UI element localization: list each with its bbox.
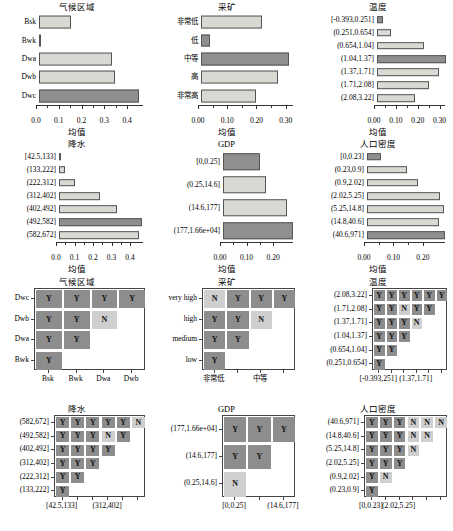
matrix-row-label: (402,492] (20, 445, 49, 453)
bar-row: (14.6,177] (152, 196, 301, 219)
x-tick (423, 243, 424, 246)
matrix-col-label: (312,402] (92, 501, 121, 510)
matrix-row-tick (31, 339, 34, 340)
matrix-row-tick (369, 336, 372, 337)
matrix-row-tick (219, 456, 222, 457)
x-axis: 0.000.100.20 (364, 242, 445, 263)
matrix-cell: Y (204, 331, 225, 349)
bar-row: (0.251,0.654] (302, 26, 453, 39)
matrix-col-label: [0,0.25] (222, 501, 246, 510)
matrix-cell: Y (399, 290, 410, 301)
bar (377, 95, 415, 103)
matrix-cell: Y (366, 445, 378, 456)
panel-title: GDP (152, 404, 301, 415)
matrix-cell: Y (64, 290, 90, 308)
x-axis: 0.00.10.20.30.4 (36, 105, 143, 126)
matrix-cell: Y (412, 304, 423, 315)
matrix-cell: Y (374, 345, 385, 356)
matrix-row-label: (14.8,40.6] (326, 432, 359, 440)
panel-climate-zone-bars: 气候区域BskBwkDwaDwbDwc0.00.10.20.30.4均值 (2, 2, 151, 137)
x-axis: 0.00.10.20.30.4 (56, 242, 143, 263)
matrix-row-tick (361, 449, 364, 450)
x-tick (374, 106, 375, 109)
bar (39, 16, 71, 29)
bar-row: (0.25,14.6] (152, 173, 301, 196)
matrix-cell: N (204, 290, 225, 308)
bar (377, 55, 446, 63)
bar-category-label: [0,0.25] (152, 158, 223, 166)
x-tick-labels: 0.000.100.20 (364, 253, 445, 263)
bar-row: Dwc (2, 87, 151, 105)
matrix-cell: N (224, 472, 246, 497)
figure-canvas: 气候区域BskBwkDwaDwbDwc0.00.10.20.30.4均值采矿非常… (0, 0, 453, 531)
bar-row: (312,402] (2, 189, 151, 202)
matrix-col-tick (122, 497, 123, 500)
bar-category-label: (492,582] (2, 218, 59, 226)
bar-plot-area: [0,0.25](0.25,14.6](14.6,177](177,1.66e+… (152, 150, 301, 242)
bar-plot-area: [0,0.23](0.23,0.9](0.9,2.02](2.02,5.25](… (302, 150, 453, 242)
bar-category-label: Dwc (2, 92, 39, 100)
matrix-cell: Y (374, 359, 385, 370)
x-tick (36, 106, 37, 109)
bar-category-label: (177,1.66e+04] (152, 227, 223, 235)
panel-title: 气候区域 (2, 277, 151, 288)
matrix-cell: N (408, 445, 420, 456)
bar-category-label: 非常低 (152, 18, 201, 26)
bar (59, 218, 142, 226)
bar-category-label: Dwa (2, 55, 39, 63)
x-tick (227, 106, 228, 109)
x-tick-label: 0.4 (122, 116, 131, 125)
matrix-cell: Y (102, 417, 115, 428)
bar-row: (1.37,1.71] (302, 66, 453, 79)
x-tick-label: 0.20 (411, 116, 424, 125)
matrix-cell: N (102, 431, 115, 442)
matrix-cell: Y (224, 417, 246, 442)
matrix-col-label: 中等 (253, 374, 267, 383)
matrix-cell: Y (374, 331, 385, 342)
bar-track (59, 216, 151, 229)
matrix-cell: Y (71, 417, 84, 428)
x-axis-title: 均值 (152, 264, 301, 274)
matrix-cell: Y (71, 445, 84, 456)
bar-track (223, 173, 301, 196)
bar-category-label: (1.04,1.37] (302, 55, 377, 63)
x-tick (93, 243, 94, 246)
bar-row: 低 (152, 31, 301, 49)
x-minor-tick (260, 243, 261, 245)
matrix-row-label: (1.71,2.08] (334, 305, 367, 313)
x-tick-label: 0.2 (77, 116, 86, 125)
matrix-row-tick (369, 295, 372, 296)
matrix-col-tick (428, 370, 429, 373)
matrix-col-tick (107, 497, 108, 500)
x-tick-label: 0.2 (88, 253, 97, 262)
matrix-col-label: [0,0.23] (359, 501, 383, 510)
bar-track (201, 13, 301, 31)
bar (39, 53, 112, 66)
matrix-cell: Y (366, 417, 378, 428)
x-minor-tick (408, 243, 409, 245)
matrix-cell: Y (71, 458, 84, 469)
bar-track (223, 150, 301, 173)
matrix-row-label: (0.654,1.04] (330, 346, 367, 354)
matrix-row-label: Dwc (15, 294, 29, 302)
matrix-row-label: (1.04,1.37] (334, 332, 367, 340)
matrix-cell: Y (387, 345, 398, 356)
x-tick-label: 0.3 (100, 116, 109, 125)
matrix-cell: N (92, 311, 118, 329)
bar-row: (2.08,3.22] (302, 92, 453, 105)
matrix-cell: N (408, 431, 420, 442)
bar-category-label: (40.6,971] (302, 231, 367, 239)
matrix-row-label: very high (168, 294, 197, 302)
bar (59, 166, 65, 174)
matrix-cell: Y (424, 304, 435, 315)
matrix-col-label: Dwb (124, 374, 139, 383)
panel-title: 温度 (302, 2, 453, 13)
x-tick (396, 106, 397, 109)
matrix-cell: Y (224, 445, 246, 470)
x-tick (127, 106, 128, 109)
bar-row: (1.71,2.08] (302, 79, 453, 92)
bar (59, 232, 139, 240)
matrix-cell: Y (56, 486, 69, 497)
matrix-col-tick (412, 497, 413, 500)
x-tick (418, 106, 419, 109)
